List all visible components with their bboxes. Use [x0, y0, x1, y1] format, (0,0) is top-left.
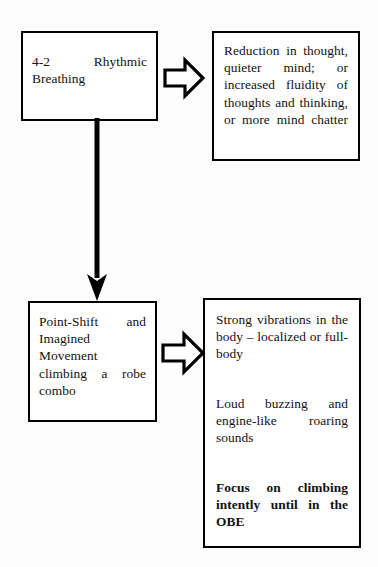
node-point-shift-imagined-movement-body: Point-Shift and Imagined Movement climbi…: [30, 303, 155, 420]
node-strong-vibrations-text-1: Strong vibrations in the body – localize…: [216, 311, 348, 380]
block-arrow-right-icon: [160, 330, 206, 376]
node-reduction-in-thought-body: Reduction in thought, quieter mind; or i…: [214, 33, 358, 159]
node-rhythmic-breathing-body: 4-2 Rhythmic Breathing: [23, 33, 156, 119]
node-strong-vibrations-body: Strong vibrations in the body – localize…: [205, 300, 359, 546]
diagram-canvas: 4-2 Rhythmic Breathing Reduction in thou…: [0, 0, 378, 567]
node-point-shift-imagined-movement[interactable]: Point-Shift and Imagined Movement climbi…: [28, 301, 157, 422]
block-arrow-right-icon: [162, 56, 206, 100]
node-reduction-in-thought-text: Reduction in thought, quieter mind; or i…: [224, 42, 348, 145]
node-strong-vibrations-text-3: Focus on climbing intently until in the …: [216, 479, 348, 548]
node-strong-vibrations[interactable]: Strong vibrations in the body – localize…: [203, 298, 361, 548]
node-rhythmic-breathing[interactable]: 4-2 Rhythmic Breathing: [21, 31, 158, 121]
node-point-shift-imagined-movement-text: Point-Shift and Imagined Movement climbi…: [39, 313, 146, 416]
node-rhythmic-breathing-text: 4-2 Rhythmic Breathing: [32, 53, 147, 105]
node-reduction-in-thought[interactable]: Reduction in thought, quieter mind; or i…: [212, 31, 360, 161]
arrow-down-icon: [80, 118, 114, 303]
node-strong-vibrations-text-2: Loud buzzing and engine-like roaring sou…: [216, 395, 348, 464]
